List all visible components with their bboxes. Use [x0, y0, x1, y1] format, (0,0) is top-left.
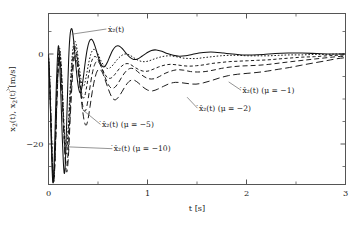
x-tick-label: 2 — [244, 188, 249, 198]
annotation-obs-mu-2: ̇x̂₂(t) (μ = −2) — [196, 104, 251, 113]
annotation-obs-mu-10: ̇x̂₂(t) (μ = −10) — [111, 144, 171, 153]
x-axis-label: t [s] — [189, 203, 205, 213]
figure-container: 01230−20 ẋ₂(t)̇x̂₂(t) (μ = −1)̇x̂₂(t) (μ… — [0, 0, 360, 228]
y-label-arg-2: (t) — [7, 90, 17, 100]
y-label-units: [m/s] — [7, 66, 17, 90]
annotation-true-state: ẋ₂(t) — [108, 25, 124, 34]
velocity-estimation-chart: 01230−20 ẋ₂(t)̇x̂₂(t) (μ = −1)̇x̂₂(t) (μ… — [0, 0, 360, 228]
figure-background — [0, 0, 360, 228]
y-tick-label: −20 — [26, 139, 43, 149]
x-tick-label: 1 — [145, 188, 150, 198]
dot-accent — [8, 87, 9, 88]
y-label-arg-1: (t) — [7, 113, 17, 123]
x-tick-label: 0 — [46, 188, 51, 198]
annotation-obs-mu-5: ̇x̂₂(t) (μ = −5) — [99, 120, 154, 129]
svg-text:x2(t), x2(t) [m/s]: x2(t), x2(t) [m/s] — [7, 66, 18, 131]
annotation-obs-mu-1: ̇x̂₂(t) (μ = −1) — [240, 86, 295, 95]
x-tick-label: 3 — [343, 188, 348, 198]
y-tick-label: 0 — [38, 49, 43, 59]
